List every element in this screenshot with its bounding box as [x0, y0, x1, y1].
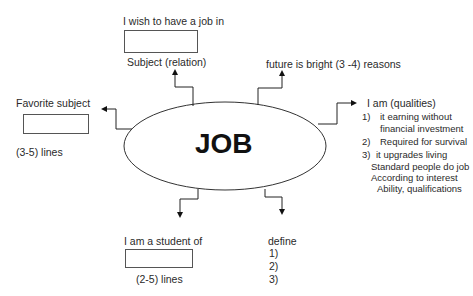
center-label: JOB — [195, 128, 253, 160]
student-of-caption: (2-5) lines — [136, 273, 183, 285]
quality-2-num: 2) — [362, 136, 370, 147]
quality-3-num: 3) — [362, 149, 370, 160]
favorite-subject-box[interactable] — [23, 114, 89, 134]
quality-1-line-2: financial investment — [380, 123, 463, 134]
quality-1-num: 1) — [362, 111, 370, 122]
job-in-heading: I wish to have a job in — [123, 15, 224, 27]
quality-extra-3: Ability, qualifications — [377, 183, 462, 194]
qualities-heading: I am (qualities) — [367, 97, 436, 109]
favorite-subject-caption: (3-5) lines — [16, 146, 63, 158]
quality-2-line-1: Required for survival — [380, 136, 467, 147]
job-in-box[interactable] — [124, 30, 198, 53]
quality-extra-2: According to interest — [371, 172, 458, 183]
future-heading: future is bright (3 -4) reasons — [266, 58, 401, 70]
define-heading: define — [268, 235, 297, 247]
quality-3-line-1: it upgrades living — [376, 149, 447, 160]
quality-extra-1: Standard people do job — [371, 161, 469, 172]
favorite-subject-heading: Favorite subject — [16, 97, 90, 109]
define-item-2: 2) — [269, 260, 278, 272]
define-item-3: 3) — [269, 273, 278, 285]
student-of-box[interactable] — [125, 249, 193, 268]
student-of-heading: I am a student of — [124, 235, 202, 247]
define-item-1: 1) — [269, 247, 278, 259]
job-in-caption: Subject (relation) — [127, 56, 206, 68]
quality-1-line-1: it earning without — [380, 111, 452, 122]
